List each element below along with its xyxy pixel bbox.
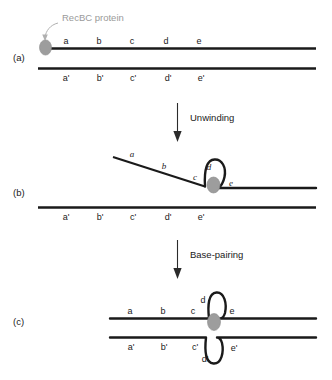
panel-c-top-label-b: b — [160, 306, 165, 316]
panel-c-label: (c) — [13, 316, 24, 327]
recbc-protein-b — [207, 177, 220, 193]
panel-b-peeled-strand — [113, 157, 205, 187]
panel-b-bottom-label-e: e' — [198, 212, 205, 222]
panel-a-bottom-label-d: d' — [165, 73, 172, 83]
panel-a-bottom-label-e: e' — [198, 73, 205, 83]
recbc-protein-a — [40, 40, 52, 55]
unwinding-label: Unwinding — [190, 112, 234, 123]
panel-a-top-label-c: c — [130, 36, 135, 46]
panel-b-label: (b) — [13, 187, 25, 198]
arrow-down-icon — [173, 131, 181, 142]
panel-c-top-label-e: e — [229, 306, 234, 316]
panel-b-loop-strand — [205, 159, 316, 188]
panel-a: (a) a b c d e a' b' c' d' e' — [13, 36, 316, 83]
panel-b-bottom-label-b: b' — [97, 212, 104, 222]
panel-c-top-label-a: a — [127, 306, 132, 316]
panel-a-bottom-label-b: b' — [97, 73, 104, 83]
panel-a-bottom-label-c: c' — [130, 73, 137, 83]
panel-b-top-label-b: b — [162, 161, 167, 171]
step-unwinding: Unwinding — [173, 103, 234, 142]
arrow-down-icon — [173, 268, 181, 279]
panel-a-label: (a) — [13, 52, 25, 63]
panel-b-bottom-label-c: c' — [130, 212, 137, 222]
panel-b: (b) a b c d e a' b' c' d' e' — [13, 149, 316, 222]
panel-c-bottom-label-e: e' — [231, 343, 238, 353]
panel-c-bottom-label-d: d' — [202, 354, 209, 364]
panel-c-bottom-strand — [110, 338, 316, 364]
recbc-unwinding-diagram: RecBC protein (a) a b c d e a' b' c' d' … — [0, 0, 332, 380]
panel-a-top-label-b: b — [96, 36, 101, 46]
recbc-protein-c — [208, 314, 221, 331]
panel-a-top-label-e: e — [196, 36, 201, 46]
base-pairing-label: Base-pairing — [190, 249, 243, 260]
panel-c-bottom-label-c: c' — [192, 342, 199, 352]
panel-b-top-label-d: d — [207, 162, 212, 172]
panel-b-top-label-e: e — [229, 178, 233, 188]
panel-a-top-label-d: d — [163, 36, 168, 46]
panel-c-top-label-c: c — [191, 306, 196, 316]
panel-c: (c) a b c d e a' b' c' d' e' — [13, 292, 316, 364]
panel-c-bottom-label-b: b' — [161, 342, 168, 352]
figure-root: RecBC protein (a) a b c d e a' b' c' d' … — [0, 0, 332, 380]
panel-a-top-label-a: a — [63, 36, 68, 46]
step-base-pairing: Base-pairing — [173, 240, 243, 279]
callout-recbc-protein: RecBC protein — [42, 12, 124, 41]
panel-b-top-label-c: c — [193, 172, 197, 182]
callout-label: RecBC protein — [62, 12, 124, 23]
panel-b-bottom-label-d: d' — [165, 212, 172, 222]
panel-b-top-label-a: a — [130, 149, 135, 159]
panel-a-bottom-label-a: a' — [63, 73, 70, 83]
panel-c-top-label-d: d — [200, 295, 205, 305]
panel-c-bottom-label-a: a' — [128, 342, 135, 352]
panel-b-bottom-label-a: a' — [63, 212, 70, 222]
